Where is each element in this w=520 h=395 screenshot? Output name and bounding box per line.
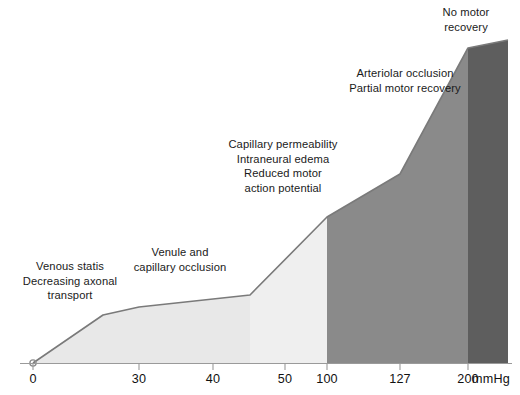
x-tick-label-50: 50	[265, 372, 305, 386]
arteriolar-occlusion-annotation: Arteriolar occlusion Partial motor recov…	[325, 66, 485, 95]
no-motor-recovery-annotation: No motor recovery	[416, 5, 516, 34]
venule-occlusion-annotation: Venule and capillary occlusion	[110, 245, 250, 274]
mid-pressure-zone	[250, 0, 327, 395]
no-motor-recovery-line-2: recovery	[416, 20, 516, 35]
x-axis-unit-label: mmHg	[472, 372, 510, 386]
capillary-permeability-line-2: Intraneural edema	[203, 152, 363, 167]
pressure-nerve-injury-chart: 0 30 40 50 100 127 200 mmHg Venous stati…	[0, 0, 520, 395]
x-axis-ticks	[33, 364, 468, 371]
capillary-permeability-annotation: Capillary permeability Intraneural edema…	[203, 137, 363, 195]
venule-occlusion-line-1: Venule and	[110, 245, 250, 260]
x-tick-label-100: 100	[307, 372, 347, 386]
venous-stasis-line-2: Decreasing axonal	[0, 274, 140, 289]
zone-bands	[33, 0, 508, 395]
arteriolar-occlusion-line-2: Partial motor recovery	[325, 81, 485, 96]
arteriolar-occlusion-line-1: Arteriolar occlusion	[325, 66, 485, 81]
capillary-permeability-line-1: Capillary permeability	[203, 137, 363, 152]
x-tick-label-0: 0	[13, 372, 53, 386]
low-pressure-zone	[33, 0, 250, 395]
venule-occlusion-line-2: capillary occlusion	[110, 260, 250, 275]
x-tick-label-30: 30	[119, 372, 159, 386]
no-motor-recovery-line-1: No motor	[416, 5, 516, 20]
critical-pressure-zone	[468, 0, 508, 395]
x-tick-label-40: 40	[193, 372, 233, 386]
x-tick-label-127: 127	[380, 372, 420, 386]
venous-stasis-line-3: transport	[0, 288, 140, 303]
capillary-permeability-line-3: Reduced motor	[203, 166, 363, 181]
chart-canvas	[0, 0, 520, 395]
capillary-permeability-line-4: action potential	[203, 181, 363, 196]
high-pressure-zone	[327, 0, 468, 395]
